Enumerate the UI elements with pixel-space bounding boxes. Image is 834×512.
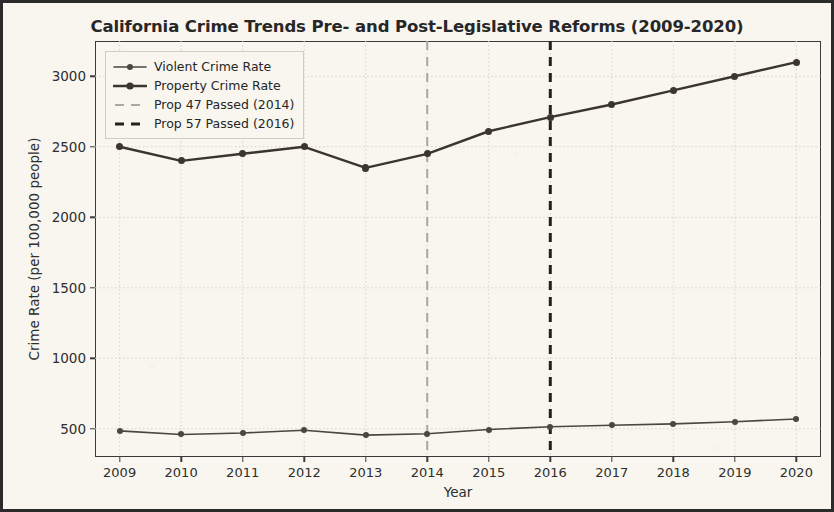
data-point xyxy=(424,431,430,437)
x-tick-mark xyxy=(365,457,366,462)
x-tick-label: 2015 xyxy=(472,465,505,480)
y-tick-label: 2000 xyxy=(52,209,86,225)
x-axis-label: Year xyxy=(95,484,821,500)
data-point xyxy=(670,87,677,94)
x-tick-mark xyxy=(734,457,735,462)
data-point xyxy=(793,59,800,66)
legend-item: Property Crime Rate xyxy=(113,76,294,94)
y-tick-mark xyxy=(90,287,95,288)
legend-label: Prop 47 Passed (2014) xyxy=(154,97,294,112)
data-point xyxy=(486,427,492,433)
data-point xyxy=(116,143,123,150)
x-tick-label: 2009 xyxy=(103,465,136,480)
x-tick-mark xyxy=(180,457,181,462)
x-tick-label: 2019 xyxy=(718,465,751,480)
data-point xyxy=(547,424,553,430)
x-tick-label: 2014 xyxy=(411,465,444,480)
legend-label: Violent Crime Rate xyxy=(154,59,271,74)
legend-dashed-line-icon xyxy=(113,116,147,130)
y-tick-mark xyxy=(90,76,95,77)
x-tick-label: 2010 xyxy=(165,465,198,480)
y-axis-label-text: Crime Rate (per 100,000 people) xyxy=(26,138,42,361)
x-tick-mark xyxy=(119,457,120,462)
data-point xyxy=(301,143,308,150)
y-tick-mark xyxy=(90,217,95,218)
legend-dashed-line-icon xyxy=(113,97,147,111)
legend-item: Prop 47 Passed (2014) xyxy=(113,95,294,113)
data-point xyxy=(424,150,431,157)
chart-legend: Violent Crime RateProperty Crime RatePro… xyxy=(105,51,304,139)
x-tick-label: 2016 xyxy=(534,465,567,480)
x-tick-label: 2013 xyxy=(349,465,382,480)
data-point xyxy=(793,416,799,422)
data-point xyxy=(301,427,307,433)
data-point xyxy=(178,431,184,437)
plot-area: 50010001500200025003000 2009201020112012… xyxy=(95,41,821,457)
x-tick-label: 2017 xyxy=(595,465,628,480)
x-tick-label: 2018 xyxy=(657,465,690,480)
data-point xyxy=(363,432,369,438)
x-tick-mark xyxy=(427,457,428,462)
data-point xyxy=(178,157,185,164)
data-point xyxy=(731,73,738,80)
chart-title: California Crime Trends Pre- and Post-Le… xyxy=(3,17,831,36)
legend-line-marker-icon xyxy=(113,78,147,92)
data-point xyxy=(608,101,615,108)
data-point xyxy=(239,150,246,157)
y-axis-label: Crime Rate (per 100,000 people) xyxy=(25,41,43,457)
data-point xyxy=(240,430,246,436)
y-tick-label: 1500 xyxy=(52,280,86,296)
legend-item: Prop 57 Passed (2016) xyxy=(113,114,294,132)
legend-item: Violent Crime Rate xyxy=(113,57,294,75)
x-tick-label: 2012 xyxy=(288,465,321,480)
x-tick-mark xyxy=(242,457,243,462)
x-tick-label: 2011 xyxy=(226,465,259,480)
y-tick-label: 500 xyxy=(60,421,86,437)
x-tick-mark xyxy=(550,457,551,462)
data-point xyxy=(732,419,738,425)
data-point xyxy=(670,421,676,427)
y-tick-label: 2500 xyxy=(52,139,86,155)
legend-line-marker-icon xyxy=(113,59,147,73)
x-tick-mark xyxy=(796,457,797,462)
data-point xyxy=(362,164,369,171)
y-tick-mark xyxy=(90,428,95,429)
y-tick-label: 3000 xyxy=(52,68,86,84)
legend-label: Property Crime Rate xyxy=(154,78,281,93)
x-tick-mark xyxy=(303,457,304,462)
data-point xyxy=(609,422,615,428)
x-tick-mark xyxy=(673,457,674,462)
data-point xyxy=(485,128,492,135)
x-tick-mark xyxy=(488,457,489,462)
y-tick-label: 1000 xyxy=(52,350,86,366)
x-tick-mark xyxy=(611,457,612,462)
legend-label: Prop 57 Passed (2016) xyxy=(154,116,294,131)
y-tick-mark xyxy=(90,146,95,147)
data-point xyxy=(547,114,554,121)
y-tick-mark xyxy=(90,358,95,359)
x-tick-label: 2020 xyxy=(780,465,813,480)
chart-figure: California Crime Trends Pre- and Post-Le… xyxy=(0,0,834,512)
data-point xyxy=(117,428,123,434)
